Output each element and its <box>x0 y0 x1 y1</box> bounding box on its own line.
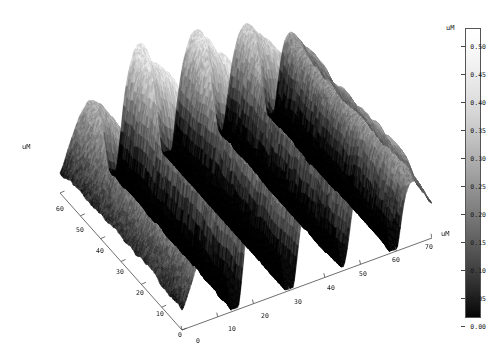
colorbar-tick: 0.05 <box>470 295 486 303</box>
x-tick: 50 <box>359 270 367 278</box>
colorbar-tick: 0.00 <box>470 323 486 331</box>
y-tick: 40 <box>96 247 104 255</box>
x-tick: 0 <box>196 337 200 345</box>
y-tick: 60 <box>56 205 64 213</box>
x-tick: 20 <box>261 312 269 320</box>
surface-3d-canvas <box>0 0 432 353</box>
y-tick: 20 <box>136 289 144 297</box>
colorbar-unit-label: uM <box>446 24 454 32</box>
colorbar-tick: 0.50 <box>470 43 486 51</box>
surface-plot-figure: uM 60 50 40 30 20 10 0 0 10 20 30 40 50 … <box>0 0 504 353</box>
colorbar-tick: 0.25 <box>470 183 486 191</box>
y-tick: 50 <box>76 226 84 234</box>
surface-plot-area: uM <box>0 0 432 353</box>
y-tick: 30 <box>116 268 124 276</box>
colorbar-tick: 0.20 <box>470 211 486 219</box>
x-tick: 70 <box>425 243 433 251</box>
y-tick: 10 <box>156 310 164 318</box>
x-tick: 10 <box>228 325 236 333</box>
x-tick: 30 <box>294 298 302 306</box>
x-tick: 40 <box>327 284 335 292</box>
colorbar-tick: 0.40 <box>470 99 486 107</box>
y-tick: 0 <box>178 331 182 339</box>
x-tick: 60 <box>392 256 400 264</box>
x-axis-unit-label: uM <box>441 230 449 238</box>
colorbar-tick: 0.35 <box>470 127 486 135</box>
colorbar-tick: 0.10 <box>470 267 486 275</box>
colorbar-tick: 0.30 <box>470 155 486 163</box>
z-axis-unit-label: uM <box>22 143 30 151</box>
colorbar-tick: 0.15 <box>470 239 486 247</box>
colorbar-tick: 0.45 <box>470 71 486 79</box>
